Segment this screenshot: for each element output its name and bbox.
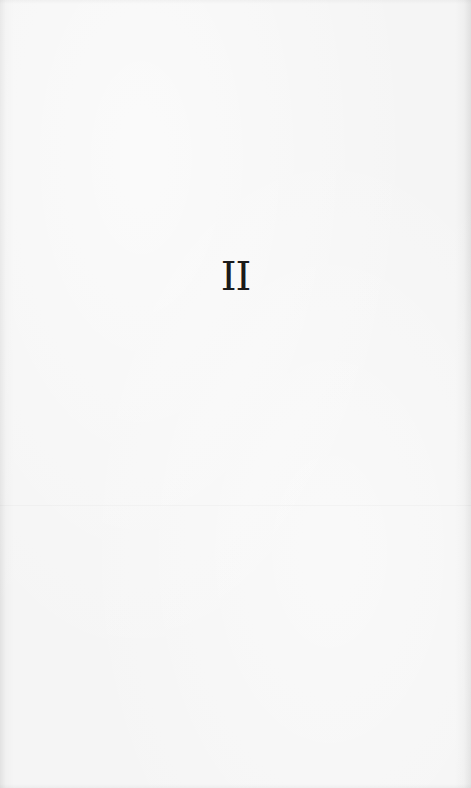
- book-page: II: [0, 0, 471, 788]
- scan-artifact-line: [0, 505, 471, 506]
- part-number-heading: II: [0, 250, 471, 302]
